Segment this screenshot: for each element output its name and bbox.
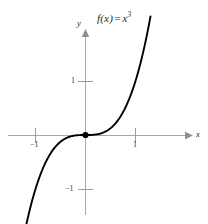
- tick-label-y-negative-1: −1: [65, 185, 74, 193]
- y-axis-label: y: [77, 19, 81, 28]
- tick-label-x-negative-1: −1: [30, 141, 39, 149]
- function-graph-figure: f(x)=x3 y x −1 1 1 −1: [0, 0, 208, 224]
- cubic-curve: [24, 16, 151, 224]
- x-axis-label: x: [196, 130, 200, 139]
- function-notation: f(x): [97, 12, 113, 24]
- y-axis-arrowhead: [82, 29, 89, 37]
- x-axis-arrowhead: [185, 132, 193, 139]
- tick-label-x-1: 1: [133, 141, 137, 149]
- function-exponent: 3: [128, 10, 132, 19]
- y-axis: [82, 29, 89, 215]
- function-equation-label: f(x)=x3: [97, 11, 132, 24]
- plot-canvas: [0, 0, 208, 224]
- origin-point-marker: [82, 132, 88, 138]
- tick-label-y-1: 1: [71, 77, 75, 85]
